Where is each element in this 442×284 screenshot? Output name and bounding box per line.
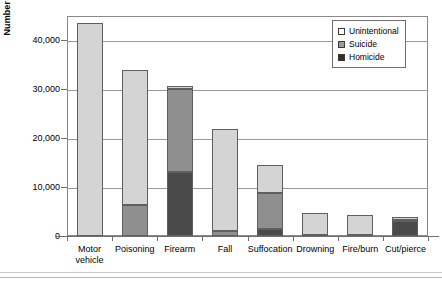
bar-segment-suicide (257, 193, 283, 229)
x-axis-tick-mark (157, 236, 158, 241)
bar-column (392, 217, 418, 236)
legend-item-label: Suicide (349, 40, 377, 49)
legend-item-label: Unintentional (349, 27, 399, 36)
bar-column (122, 70, 148, 236)
y-axis-tick-label: 20,000 (8, 134, 60, 143)
bar-segment-unintentional (167, 86, 193, 89)
bar-segment-unintentional (257, 165, 283, 193)
legend-swatch-icon (338, 54, 345, 61)
legend-item: Suicide (338, 38, 399, 50)
x-axis-tick-mark (293, 236, 294, 241)
legend-swatch-icon (338, 41, 345, 48)
bar-segment-unintentional (302, 213, 328, 235)
bar-chart: Number of Deaths 010,00020,00030,00040,0… (0, 0, 442, 284)
y-axis-tick-label: 0 (8, 232, 60, 241)
x-axis-tick-mark (112, 236, 113, 241)
legend-item-label: Homicide (349, 53, 384, 62)
bar-segment-unintentional (347, 215, 373, 236)
page-divider-bottom (0, 277, 442, 278)
bar-column (167, 86, 193, 236)
bar-column (302, 213, 328, 236)
bar-segment-homicide (392, 221, 418, 236)
bar-segment-unintentional (392, 217, 418, 220)
chart-legend: UnintentionalSuicideHomicide (332, 20, 406, 68)
bar-segment-homicide (167, 172, 193, 236)
legend-swatch-icon (338, 28, 345, 35)
x-axis-tick-mark (202, 236, 203, 241)
bar-segment-suicide (167, 89, 193, 172)
bar-segment-suicide (122, 205, 148, 236)
y-axis-tick-label: 30,000 (8, 85, 60, 94)
bar-column (347, 215, 373, 237)
x-axis-tick-mark (248, 236, 249, 241)
bar-segment-unintentional (122, 70, 148, 205)
bar-column (77, 23, 103, 236)
legend-item: Unintentional (338, 25, 399, 37)
x-axis-tick-mark (67, 236, 68, 241)
legend-item: Homicide (338, 51, 399, 63)
x-axis-tick-mark (338, 236, 339, 241)
bar-column (257, 165, 283, 236)
x-axis-tick-mark (383, 236, 384, 241)
y-axis-tick-label: 10,000 (8, 183, 60, 192)
bar-segment-homicide (257, 229, 283, 236)
y-axis-tick-label: 40,000 (8, 36, 60, 45)
x-axis-tick-mark (428, 236, 429, 241)
bar-column (212, 129, 238, 236)
bar-segment-unintentional (77, 23, 103, 236)
page-divider-top (0, 272, 442, 273)
x-axis-tick-label: Cut/pierce (377, 244, 434, 255)
bar-segment-unintentional (212, 129, 238, 231)
